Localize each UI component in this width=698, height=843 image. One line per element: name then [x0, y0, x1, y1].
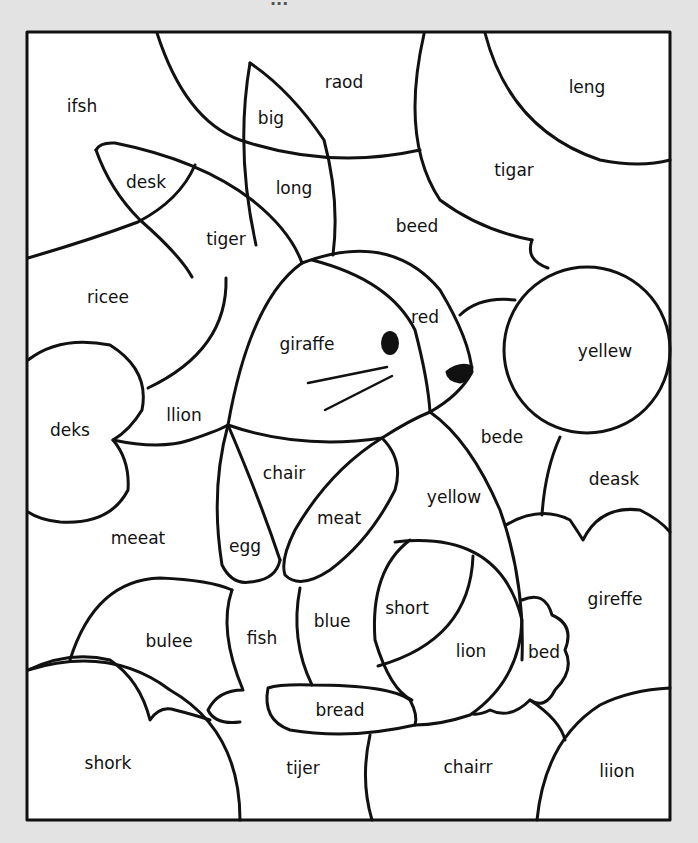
region-label-lion[interactable]: lion: [456, 641, 487, 661]
region-label-leng[interactable]: leng: [569, 77, 606, 97]
region-label-ricee[interactable]: ricee: [87, 287, 129, 307]
region-label-beed[interactable]: beed: [396, 216, 439, 236]
region-label-tigar[interactable]: tigar: [494, 160, 534, 180]
region-label-red[interactable]: red: [411, 307, 439, 327]
region-label-giraffe[interactable]: giraffe: [279, 334, 334, 354]
region-label-blue[interactable]: blue: [314, 611, 351, 631]
rabbit-eye: [381, 331, 399, 355]
region-label-deks[interactable]: deks: [50, 420, 90, 440]
region-label-long[interactable]: long: [276, 178, 313, 198]
region-label-bed[interactable]: bed: [528, 642, 560, 662]
region-label-fish[interactable]: fish: [247, 628, 277, 648]
region-label-deask[interactable]: deask: [589, 469, 639, 489]
region-label-yellow[interactable]: yellow: [427, 487, 481, 507]
region-label-raod[interactable]: raod: [325, 72, 364, 92]
region-label-egg[interactable]: egg: [229, 536, 261, 556]
region-label-tiger[interactable]: tiger: [206, 229, 246, 249]
region-label-chairr[interactable]: chairr: [444, 757, 493, 777]
region-label-meeat[interactable]: meeat: [111, 528, 166, 548]
region-label-shork[interactable]: shork: [85, 753, 132, 773]
region-label-big[interactable]: big: [258, 108, 284, 128]
region-label-liion[interactable]: liion: [599, 761, 634, 781]
region-label-chair[interactable]: chair: [263, 463, 305, 483]
region-label-desk[interactable]: desk: [126, 172, 166, 192]
region-label-llion[interactable]: llion: [166, 405, 201, 425]
region-label-yellew[interactable]: yellew: [578, 341, 632, 361]
region-label-bulee[interactable]: bulee: [145, 631, 192, 651]
region-label-gireffe[interactable]: gireffe: [588, 589, 643, 609]
region-label-short[interactable]: short: [385, 598, 429, 618]
region-label-meat[interactable]: meat: [317, 508, 361, 528]
region-label-tijer[interactable]: tijer: [286, 758, 320, 778]
region-label-bread[interactable]: bread: [315, 700, 364, 720]
region-label-bede[interactable]: bede: [481, 427, 524, 447]
region-label-ifsh[interactable]: ifsh: [67, 96, 97, 116]
